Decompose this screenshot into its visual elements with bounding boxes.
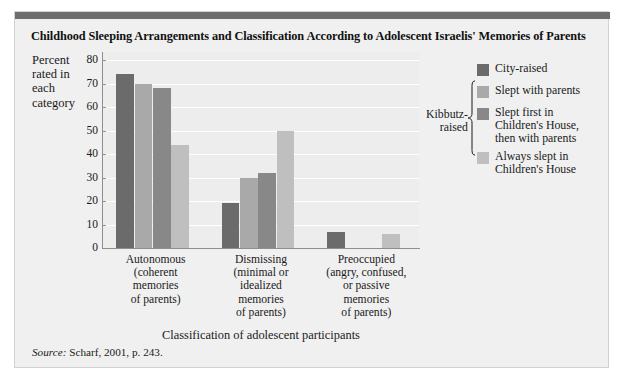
bar [382,234,400,248]
y-tick-mark [102,154,106,155]
decorative-top-rule [15,12,610,19]
y-tick-mark [102,131,106,132]
brace-icon [467,80,476,156]
y-tick-label: 30 [74,172,98,184]
legend-swatch [477,86,489,98]
kibbutz-raised-brace-label: Kibbutz-raised [412,108,468,134]
legend-swatch [477,108,489,120]
chart-title: Childhood Sleeping Arrangements and Clas… [31,29,596,44]
bar [277,131,295,249]
legend-swatch [477,64,489,76]
x-category-label: Preoccupied(angry, confused,or passiveme… [300,253,433,319]
y-tick-mark [102,107,106,108]
y-tick-label: 40 [74,148,98,160]
plot-area [103,56,419,248]
y-tick-label: 50 [74,125,98,137]
source-text: Scharf, 2001, p. 243. [66,346,162,358]
y-tick-mark [102,201,106,202]
y-tick-mark [102,84,106,85]
y-axis-tick-labels: 01020304050607080 [72,12,98,379]
gridline [103,60,419,61]
x-axis-title: Classification of adolescent participant… [103,328,419,343]
bar [327,232,345,248]
y-tick-label: 70 [74,78,98,90]
bar [240,178,258,249]
legend-label: Slept first inChildren's House,then with… [495,106,611,146]
y-tick-mark [102,248,106,249]
bar [222,203,240,248]
y-axis-line [102,52,103,248]
x-axis-line [102,248,420,249]
bar [153,88,171,248]
y-tick-label: 10 [74,219,98,231]
y-tick-label: 20 [74,195,98,207]
legend-label: City-raised [495,62,611,75]
bar [258,173,276,248]
legend-label: Always slept inChildren's House [495,150,611,176]
source-prefix: Source: [32,346,66,358]
y-tick-label: 0 [74,242,98,254]
y-tick-label: 80 [74,54,98,66]
y-tick-mark [102,225,106,226]
y-tick-label: 60 [74,101,98,113]
y-tick-mark [102,60,106,61]
bar [135,84,153,249]
y-tick-mark [102,178,106,179]
bar [171,145,189,248]
legend-label: Slept with parents [495,84,611,97]
source-note: Source: Scharf, 2001, p. 243. [32,346,163,358]
legend-swatch [477,152,489,164]
bar [116,74,134,248]
figure-panel: Childhood Sleeping Arrangements and Clas… [14,11,609,368]
